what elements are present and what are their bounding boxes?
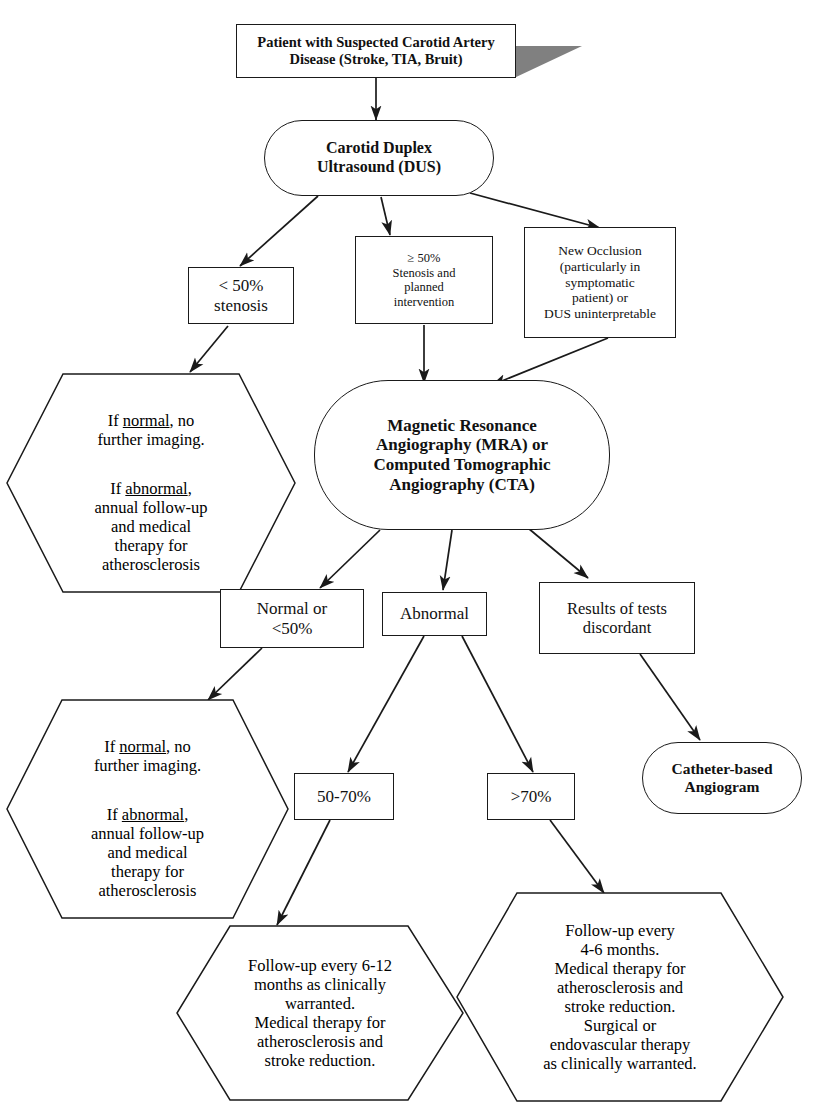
node-ge50-label: ≥ 50% Stenosis and planned intervention (356, 251, 492, 309)
node-occlusion-label: New Occlusion (particularly in symptomat… (525, 243, 675, 321)
node-patient-suspected-carotid: Patient with Suspected Carotid Artery Di… (236, 24, 516, 78)
node-dus-label: Carotid Duplex Ultrasound (DUS) (265, 139, 493, 176)
edge-discordant-to-catheter (640, 654, 700, 740)
node-stenosis-gt-70: >70% (487, 773, 575, 820)
node-abnormal-label: Abnormal (383, 604, 486, 624)
node-hex-bottom-left-text: If normal, no further imaging. If abnorm… (5, 698, 290, 920)
node-lt-50-stenosis: < 50% stenosis (188, 267, 294, 324)
node-hex-4-6-label: Follow-up every 4-6 months. Medical ther… (488, 921, 752, 1074)
node-hex-6-12-text: Follow-up every 6-12 months as clinicall… (175, 924, 465, 1102)
node-catheter-label: Catheter-based Angiogram (643, 760, 801, 796)
flowchart-canvas: Patient with Suspected Carotid Artery Di… (0, 0, 814, 1103)
hex-top-abnormal-word: abnormal (125, 479, 187, 498)
node-hex-normal-abnormal-top: If normal, no further imaging. If abnorm… (5, 372, 297, 594)
node-hex-4-6-text: Follow-up every 4-6 months. Medical ther… (455, 891, 785, 1103)
node-patient-label: Patient with Suspected Carotid Artery Di… (237, 34, 515, 68)
node-50-70-label: 50-70% (295, 787, 393, 807)
hex-bottom-normal-word: normal (119, 737, 166, 756)
edge-dus-to-lt50 (240, 196, 318, 266)
edge-occlusion-to-mra (492, 338, 608, 385)
node-discordant-label: Results of tests discordant (540, 599, 694, 637)
node-results-discordant: Results of tests discordant (539, 582, 695, 654)
hex-top-normal-word: normal (123, 411, 170, 430)
edge-lt50-to-hex-top-left (190, 326, 228, 372)
node-lt50-label: < 50% stenosis (189, 276, 293, 315)
node-normal-or-label: Normal or <50% (221, 599, 363, 638)
edge-dus-to-occlusion (470, 193, 600, 228)
edge-abnormal-to-50-70 (348, 636, 424, 772)
drop-shadow-triangle (514, 32, 584, 84)
node-hex-6-12-label: Follow-up every 6-12 months as clinicall… (204, 956, 436, 1071)
hex-top-if-2: If (110, 479, 125, 498)
node-hex-followup-4-6-months: Follow-up every 4-6 months. Medical ther… (455, 891, 785, 1103)
edge-mra-to-abnormal (443, 530, 452, 590)
node-hex-followup-6-12-months: Follow-up every 6-12 months as clinicall… (175, 924, 465, 1102)
edge-dus-to-ge50 (381, 197, 390, 235)
edge-gt70-to-hex-4-6 (550, 820, 604, 893)
hex-bottom-if-2: If (107, 805, 122, 824)
hex-top-if-1: If (108, 411, 123, 430)
node-new-occlusion: New Occlusion (particularly in symptomat… (524, 227, 676, 338)
node-gt70-label: >70% (488, 787, 574, 807)
node-catheter-based-angiogram: Catheter-based Angiogram (642, 742, 802, 814)
node-mra-cta-label: Magnetic Resonance Angiography (MRA) or … (315, 416, 609, 495)
edge-abnormal-to-gt70 (462, 636, 533, 772)
node-ge-50-stenosis-planned-intervention: ≥ 50% Stenosis and planned intervention (355, 236, 493, 324)
node-carotid-duplex-ultrasound: Carotid Duplex Ultrasound (DUS) (264, 120, 494, 196)
node-hex-top-left-text: If normal, no further imaging. If abnorm… (5, 372, 297, 594)
hex-bottom-abnormal-word: abnormal (122, 805, 184, 824)
edge-mra-to-discordant (528, 528, 588, 578)
edge-mra-to-normal (320, 530, 380, 588)
node-stenosis-50-70: 50-70% (294, 773, 394, 820)
hex-bottom-if-1: If (104, 737, 119, 756)
node-normal-or-lt50: Normal or <50% (220, 589, 364, 648)
node-abnormal: Abnormal (382, 592, 487, 636)
node-mra-cta: Magnetic Resonance Angiography (MRA) or … (314, 380, 610, 530)
node-hex-normal-abnormal-bottom: If normal, no further imaging. If abnorm… (5, 698, 290, 920)
edge-normal-to-hex-bottom-left (208, 648, 262, 700)
